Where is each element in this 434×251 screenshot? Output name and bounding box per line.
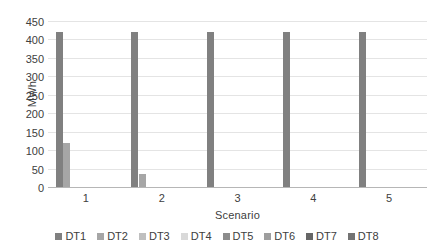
y-axis-tick-label: 250 — [14, 90, 44, 102]
x-axis-tick-label: 1 — [83, 192, 89, 204]
legend-item-dt7[interactable]: DT7 — [306, 230, 337, 242]
legend-swatch-icon — [348, 233, 355, 240]
legend-label: DT5 — [233, 230, 254, 242]
y-axis-tick-label: 450 — [14, 16, 44, 28]
y-axis-tick-label: 50 — [14, 164, 44, 176]
legend-item-dt8[interactable]: DT8 — [348, 230, 379, 242]
legend-item-dt4[interactable]: DT4 — [181, 230, 212, 242]
y-axis-tick-label: 350 — [14, 53, 44, 65]
legend-item-dt1[interactable]: DT1 — [55, 230, 86, 242]
legend-item-dt2[interactable]: DT2 — [97, 230, 128, 242]
bar — [207, 32, 214, 187]
legend-swatch-icon — [55, 233, 62, 240]
bar — [56, 32, 63, 187]
bar-layer — [48, 22, 427, 188]
bar — [283, 32, 290, 187]
y-axis-tick-label: 300 — [14, 71, 44, 83]
legend-swatch-icon — [264, 233, 271, 240]
plot-area — [48, 22, 427, 188]
bar — [139, 174, 146, 187]
legend-label: DT7 — [316, 230, 337, 242]
y-axis-tick-labels: 050100150200250300350400450 — [10, 22, 44, 188]
bar — [63, 143, 70, 187]
x-axis-tick-label: 2 — [159, 192, 165, 204]
y-axis-tick-label: 150 — [14, 127, 44, 139]
legend-swatch-icon — [306, 233, 313, 240]
legend-swatch-icon — [223, 233, 230, 240]
scenario-bar-group — [200, 22, 276, 188]
legend-item-dt6[interactable]: DT6 — [264, 230, 295, 242]
x-axis-tick-label: 5 — [386, 192, 392, 204]
x-axis-line — [48, 187, 427, 188]
legend-swatch-icon — [181, 233, 188, 240]
y-axis-tick-label: 0 — [14, 182, 44, 194]
y-axis-tick-label: 400 — [14, 34, 44, 46]
x-axis-tick-label: 4 — [310, 192, 316, 204]
legend-label: DT4 — [191, 230, 212, 242]
legend-label: DT8 — [358, 230, 379, 242]
x-axis-tick-label: 3 — [234, 192, 240, 204]
bar-chart: MWh 050100150200250300350400450 12345 Sc… — [0, 0, 434, 251]
legend-label: DT1 — [65, 230, 86, 242]
scenario-bar-group — [48, 22, 124, 188]
legend-label: DT3 — [149, 230, 170, 242]
legend-swatch-icon — [139, 233, 146, 240]
y-axis-tick-label: 200 — [14, 108, 44, 120]
scenario-bar-group — [351, 22, 427, 188]
scenario-bar-group — [124, 22, 200, 188]
legend-label: DT6 — [274, 230, 295, 242]
x-axis-tick-labels: 12345 — [48, 192, 427, 208]
bar — [359, 32, 366, 187]
legend-item-dt3[interactable]: DT3 — [139, 230, 170, 242]
legend-swatch-icon — [97, 233, 104, 240]
legend-label: DT2 — [107, 230, 128, 242]
chart-legend: DT1DT2DT3DT4DT5DT6DT7DT8 — [0, 230, 434, 242]
legend-item-dt5[interactable]: DT5 — [223, 230, 254, 242]
scenario-bar-group — [275, 22, 351, 188]
x-axis-title: Scenario — [48, 209, 427, 221]
y-axis-tick-label: 100 — [14, 145, 44, 157]
bar — [131, 32, 138, 187]
